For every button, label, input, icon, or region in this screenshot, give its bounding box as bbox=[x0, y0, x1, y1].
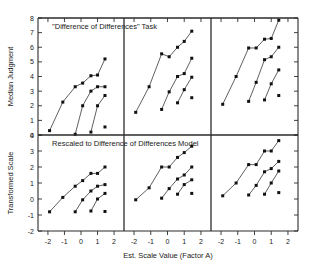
x-tick-label-panel2-0: -2 bbox=[218, 238, 224, 245]
data-point-r0-p1-s0-5 bbox=[183, 40, 186, 43]
y-tick-label-row1-1: -1 bbox=[28, 212, 34, 219]
data-point-r1-p1-s1-1 bbox=[168, 187, 171, 190]
data-point-r1-p0-s0-1 bbox=[61, 196, 64, 199]
data-point-r1-p0-s1-3 bbox=[96, 185, 99, 188]
data-point-r0-p0-s1-2 bbox=[89, 90, 92, 93]
data-point-r1-p1-s1-4 bbox=[190, 166, 193, 169]
x-tick-label-panel0-4: 2 bbox=[112, 238, 116, 245]
y-tick-label-row1-5: 3 bbox=[30, 148, 34, 155]
data-point-r1-p1-s3-0 bbox=[190, 192, 193, 195]
data-point-r0-p2-s1-4 bbox=[277, 46, 280, 49]
data-point-r1-p2-s2-0 bbox=[263, 193, 266, 196]
data-point-r1-p0-s0-6 bbox=[103, 166, 106, 169]
series-line-r0-p0-s1 bbox=[75, 87, 105, 135]
data-point-r0-p2-s1-2 bbox=[263, 58, 266, 61]
data-point-r0-p1-s3-0 bbox=[190, 96, 193, 99]
y-tick-label-row0-4: 4 bbox=[30, 73, 34, 80]
x-tick-label-panel2-2: 0 bbox=[253, 238, 257, 245]
y-tick-label-row0-5: 5 bbox=[30, 58, 34, 65]
data-point-r1-p2-s2-1 bbox=[270, 182, 273, 185]
x-tick-label-panel2-1: -1 bbox=[235, 238, 241, 245]
y-tick-label-row0-2: 2 bbox=[30, 102, 34, 109]
data-point-r1-p1-s1-0 bbox=[160, 197, 163, 200]
data-point-r1-p1-s0-3 bbox=[168, 166, 171, 169]
data-point-r0-p0-s2-1 bbox=[96, 104, 99, 107]
data-point-r1-p1-s0-1 bbox=[148, 186, 151, 189]
data-point-r0-p1-s1-2 bbox=[176, 75, 179, 78]
data-point-r0-p0-s2-2 bbox=[103, 94, 106, 97]
series-line-r0-p2-s0 bbox=[223, 20, 279, 104]
data-point-r0-p1-s0-6 bbox=[190, 30, 193, 33]
data-point-r0-p2-s0-0 bbox=[221, 103, 224, 106]
x-tick-label-panel0-3: 1 bbox=[96, 238, 100, 245]
data-point-r0-p2-s1-1 bbox=[255, 81, 258, 84]
data-point-r0-p1-s0-4 bbox=[176, 46, 179, 49]
data-point-r1-p0-s0-4 bbox=[89, 172, 92, 175]
data-point-r1-p2-s1-2 bbox=[263, 170, 266, 173]
data-point-r0-p2-s2-2 bbox=[277, 68, 280, 71]
y-tick-label-row1-0: -2 bbox=[28, 228, 34, 235]
data-point-r1-p0-s0-3 bbox=[81, 179, 84, 182]
data-point-r1-p2-s0-1 bbox=[235, 182, 238, 185]
data-point-r0-p0-s1-4 bbox=[103, 85, 106, 88]
data-point-r0-p2-s0-4 bbox=[263, 38, 266, 41]
figure-container: 012345678Median Judgment"Difference of D… bbox=[0, 0, 315, 269]
data-point-r0-p2-s0-1 bbox=[235, 75, 238, 78]
panel-annotation-row0: "Difference of Differences" Task bbox=[52, 22, 157, 31]
x-tick-label-panel1-1: -1 bbox=[148, 238, 154, 245]
data-point-r0-p0-s0-6 bbox=[103, 57, 106, 60]
data-point-r1-p2-s0-3 bbox=[255, 163, 258, 166]
data-point-r0-p0-s0-1 bbox=[61, 101, 64, 104]
data-point-r1-p2-s3-0 bbox=[277, 191, 280, 194]
y-tick-label-row0-1: 1 bbox=[30, 117, 34, 124]
y-tick-label-row1-2: 0 bbox=[30, 196, 34, 203]
data-point-r0-p2-s0-6 bbox=[277, 19, 280, 22]
data-point-r1-p2-s1-0 bbox=[247, 194, 250, 197]
data-point-r1-p1-s0-5 bbox=[183, 151, 186, 154]
data-point-r1-p2-s0-0 bbox=[221, 194, 224, 197]
data-point-r0-p2-s2-0 bbox=[263, 98, 266, 101]
data-point-r0-p0-s0-5 bbox=[96, 74, 99, 77]
x-tick-label-panel1-0: -2 bbox=[131, 238, 137, 245]
data-point-r1-p0-s1-0 bbox=[74, 210, 77, 213]
data-point-r0-p1-s1-3 bbox=[183, 72, 186, 75]
data-point-r1-p2-s0-5 bbox=[270, 150, 273, 153]
data-point-r1-p0-s0-0 bbox=[48, 210, 51, 213]
data-point-r1-p0-s3-0 bbox=[103, 210, 106, 213]
data-point-r1-p1-s2-0 bbox=[176, 193, 179, 196]
data-point-r0-p0-s0-4 bbox=[89, 74, 92, 77]
data-point-r1-p0-s2-2 bbox=[103, 192, 106, 195]
series-line-r1-p1-s0 bbox=[136, 146, 192, 200]
data-point-r0-p0-s1-1 bbox=[81, 104, 84, 107]
data-point-r1-p0-s0-2 bbox=[74, 185, 77, 188]
y-tick-label-row1-3: 1 bbox=[30, 180, 34, 187]
data-point-r1-p0-s1-2 bbox=[89, 190, 92, 193]
data-point-r0-p0-s1-3 bbox=[96, 85, 99, 88]
series-line-r1-p0-s2 bbox=[91, 193, 105, 211]
data-point-r1-p2-s1-4 bbox=[277, 160, 280, 163]
x-tick-label-panel0-2: 0 bbox=[79, 238, 83, 245]
data-point-r1-p2-s0-2 bbox=[247, 163, 250, 166]
data-point-r1-p2-s1-1 bbox=[255, 184, 258, 187]
series-line-r1-p0-s1 bbox=[75, 185, 105, 212]
y-tick-label-row0-8: 8 bbox=[30, 15, 34, 22]
data-point-r0-p1-s0-0 bbox=[134, 111, 137, 114]
data-point-r0-p0-s0-0 bbox=[48, 129, 51, 132]
data-point-r0-p0-s0-2 bbox=[74, 85, 77, 88]
series-line-r0-p0-s2 bbox=[91, 96, 105, 133]
data-point-r0-p1-s2-1 bbox=[183, 88, 186, 91]
x-axis-title: Est. Scale Value (Factor A) bbox=[123, 251, 213, 260]
data-point-r1-p1-s0-4 bbox=[176, 156, 179, 159]
data-point-r0-p2-s1-0 bbox=[247, 100, 250, 103]
data-point-r0-p1-s0-3 bbox=[168, 55, 171, 58]
y-tick-label-row0-3: 3 bbox=[30, 88, 34, 95]
data-point-r0-p2-s1-3 bbox=[270, 55, 273, 58]
data-point-r0-p1-s1-4 bbox=[190, 57, 193, 60]
x-tick-label-panel1-4: 2 bbox=[199, 238, 203, 245]
data-point-r1-p0-s2-0 bbox=[89, 210, 92, 213]
x-tick-label-panel1-3: 1 bbox=[182, 238, 186, 245]
data-point-r0-p2-s0-2 bbox=[247, 46, 250, 49]
data-point-r0-p1-s0-1 bbox=[148, 85, 151, 88]
x-tick-label-panel0-1: -1 bbox=[61, 238, 67, 245]
data-point-r1-p1-s0-2 bbox=[160, 166, 163, 169]
